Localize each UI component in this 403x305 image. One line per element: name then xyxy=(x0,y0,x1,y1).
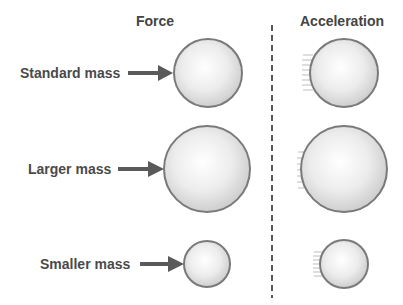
ball-acceleration-larger xyxy=(301,126,387,212)
ball-force-smaller xyxy=(184,241,230,287)
ball-force-standard xyxy=(174,39,242,107)
ball-force-larger xyxy=(164,126,250,212)
force-arrow-standard xyxy=(128,65,173,81)
ball-acceleration-standard xyxy=(310,39,378,107)
force-arrow-larger xyxy=(118,161,164,177)
force-arrow-smaller xyxy=(140,256,184,272)
ball-acceleration-smaller xyxy=(320,240,368,288)
diagram-canvas xyxy=(0,0,403,305)
